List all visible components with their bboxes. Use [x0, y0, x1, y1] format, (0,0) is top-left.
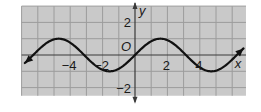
x-axis-label: x — [234, 56, 242, 71]
y-tick-label: −2 — [116, 81, 131, 96]
y-axis-down-arrow-icon — [133, 97, 138, 104]
plot-background — [22, 6, 246, 96]
x-tick-label: −4 — [62, 58, 77, 73]
x-tick-label: 4 — [195, 58, 202, 73]
y-tick-label: 2 — [124, 15, 131, 30]
x-tick-label: −2 — [94, 58, 109, 73]
sine-graph: −4−2242−2Oyx — [0, 0, 261, 112]
origin-label: O — [121, 39, 131, 54]
x-tick-label: 2 — [163, 58, 170, 73]
